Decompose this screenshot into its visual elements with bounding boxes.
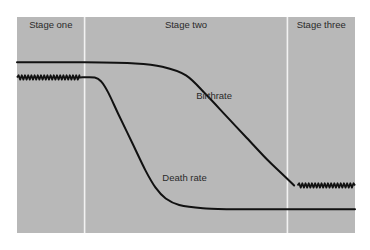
stage-label: Stage one: [29, 19, 72, 30]
demographic-transition-chart: Stage oneStage twoStage three BirthrateD…: [0, 0, 370, 250]
death-rate-label: Death rate: [162, 172, 206, 183]
birthrate-label: Birthrate: [196, 90, 232, 101]
stage-label: Stage two: [165, 19, 207, 30]
stage-label: Stage three: [297, 19, 346, 30]
chart-panel: [17, 17, 355, 233]
